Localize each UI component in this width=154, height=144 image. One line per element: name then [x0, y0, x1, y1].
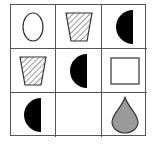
- black-half-circle-icon: [69, 53, 89, 89]
- cell-r2-c2: [56, 49, 102, 93]
- cell-r2-c3: [102, 49, 147, 93]
- cell-r1-c2: [56, 5, 102, 49]
- cell-r3-c3: [102, 93, 147, 137]
- gray-teardrop-icon: [110, 96, 140, 134]
- cell-r1-c1: [11, 5, 56, 49]
- black-half-circle-icon: [23, 97, 43, 133]
- square-icon: [109, 56, 141, 86]
- cell-r3-c1: [11, 93, 56, 137]
- black-half-circle-icon: [115, 9, 135, 45]
- ellipse-icon: [21, 11, 45, 43]
- hatched-trapezoid-icon: [18, 55, 48, 87]
- cell-r1-c3: [102, 5, 147, 49]
- puzzle-grid: [10, 4, 146, 136]
- cell-r3-c2-empty: [56, 93, 102, 137]
- hatched-trapezoid-icon: [64, 11, 94, 43]
- cell-r2-c1: [11, 49, 56, 93]
